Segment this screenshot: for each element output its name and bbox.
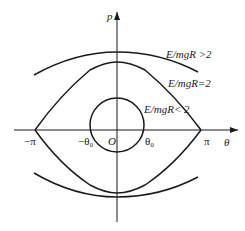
pos-pi-label: π — [204, 135, 210, 147]
separatrix-label: E/mgR=2 — [167, 77, 211, 89]
p-axis-arrow-icon — [114, 12, 120, 20]
theta-axis-label: θ — [224, 136, 230, 148]
neg-pi-label: −π — [24, 135, 36, 147]
pos-theta0-label: θ₀ — [145, 135, 154, 147]
separatrix-upper — [35, 62, 201, 130]
closed-orbit-label: E/mgR< 2 — [143, 103, 190, 115]
p-axis-label: p — [106, 10, 113, 22]
origin-label: O — [108, 135, 116, 147]
open-orbit-label: E/mgR >2 — [165, 48, 212, 60]
separatrix-lower — [35, 130, 201, 193]
neg-theta0-label: −θ₀ — [78, 135, 93, 147]
theta-axis-arrow-icon — [230, 127, 238, 133]
phase-diagram: p θ O −π π −θ₀ θ₀ E/mgR >2 E/mgR=2 E/mgR… — [0, 0, 245, 231]
